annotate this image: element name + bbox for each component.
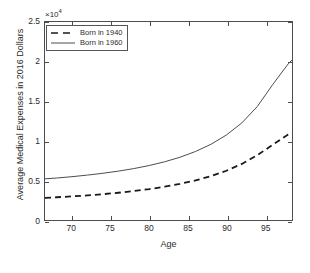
- y-tick-mark: [45, 102, 49, 103]
- legend-item-born-in-1940: Born in 1940: [50, 28, 123, 38]
- x-tick-mark: [267, 216, 268, 220]
- x-tick-mark: [189, 216, 190, 220]
- legend-item-born-in-1960: Born in 1960: [50, 38, 123, 48]
- y-tick-label: 1: [35, 137, 40, 146]
- y-tick-label: 1.5: [28, 97, 40, 106]
- x-tick-mark: [72, 216, 73, 220]
- y-tick-mark-right: [288, 102, 292, 103]
- y-tick-mark-right: [288, 182, 292, 183]
- line-series-born-in-1960: [45, 60, 292, 179]
- y-tick-label: 0: [35, 217, 40, 226]
- x-tick-mark-top: [189, 22, 190, 26]
- y-tick-mark-right: [288, 222, 292, 223]
- chart-legend: Born in 1940 Born in 1960: [46, 25, 128, 51]
- legend-label-1960: Born in 1960: [80, 39, 123, 47]
- y-tick-label: 2: [35, 57, 40, 66]
- x-tick-mark: [228, 216, 229, 220]
- plot-area: [44, 21, 293, 221]
- exponent-base: ×10: [45, 10, 59, 19]
- x-tick-mark-top: [267, 22, 268, 26]
- x-tick-label: 95: [261, 224, 270, 233]
- y-tick-mark-right: [288, 142, 292, 143]
- x-tick-label: 70: [66, 224, 75, 233]
- legend-dashed-line-swatch: [50, 28, 76, 38]
- exponent-power: 4: [59, 8, 62, 14]
- legend-label-1940: Born in 1940: [80, 29, 123, 37]
- y-tick-label: 0.5: [28, 177, 40, 186]
- y-tick-mark: [45, 22, 49, 23]
- x-tick-mark-top: [228, 22, 229, 26]
- legend-solid-line-swatch: [50, 38, 76, 48]
- x-tick-mark-top: [150, 22, 151, 26]
- curves-layer: [45, 22, 292, 220]
- y-tick-label: 2.5: [28, 17, 40, 26]
- y-tick-mark: [45, 142, 49, 143]
- y-tick-mark: [45, 182, 49, 183]
- x-tick-label: 75: [105, 224, 114, 233]
- x-tick-label: 80: [144, 224, 153, 233]
- x-axis-title: Age: [44, 240, 293, 249]
- y-axis-exponent-label: ×104: [45, 8, 62, 19]
- chart-figure: ×104 00.511.522.5 Born in 1940 Born in 1…: [0, 0, 310, 273]
- y-tick-mark-right: [288, 62, 292, 63]
- line-series-born-in-1940: [45, 133, 292, 198]
- y-tick-mark: [45, 222, 49, 223]
- x-tick-label: 90: [222, 224, 231, 233]
- y-tick-mark: [45, 62, 49, 63]
- x-tick-mark: [150, 216, 151, 220]
- x-tick-mark: [111, 216, 112, 220]
- y-tick-mark-right: [288, 22, 292, 23]
- y-axis-title: Average Medical Expenses in 2016 Dollars: [16, 15, 25, 215]
- x-tick-label: 85: [183, 224, 192, 233]
